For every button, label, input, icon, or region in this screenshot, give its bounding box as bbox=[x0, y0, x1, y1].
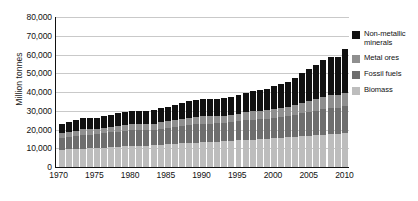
bar-segment bbox=[73, 149, 79, 167]
bar-column[interactable] bbox=[342, 17, 348, 167]
bar-column[interactable] bbox=[200, 17, 206, 167]
bar-column[interactable] bbox=[80, 17, 86, 167]
bar-segment bbox=[285, 82, 291, 107]
bar-column[interactable] bbox=[101, 17, 107, 167]
bar-segment bbox=[207, 116, 213, 123]
y-axis-tick: 60,000 bbox=[27, 50, 52, 60]
bar-column[interactable] bbox=[292, 17, 298, 167]
legend-item[interactable]: Fossil fuels bbox=[352, 70, 418, 79]
bar-segment bbox=[243, 120, 249, 140]
bar-series-container bbox=[56, 17, 349, 167]
bar-column[interactable] bbox=[172, 17, 178, 167]
bar-column[interactable] bbox=[165, 17, 171, 167]
bar-column[interactable] bbox=[193, 17, 199, 167]
bar-column[interactable] bbox=[66, 17, 72, 167]
bar-segment bbox=[264, 89, 270, 110]
x-axis-tick: 1975 bbox=[85, 170, 104, 180]
bar-segment bbox=[264, 139, 270, 167]
bar-column[interactable] bbox=[264, 17, 270, 167]
bar-column[interactable] bbox=[186, 17, 192, 167]
legend-swatch-icon bbox=[352, 31, 360, 39]
bar-segment bbox=[313, 135, 319, 167]
chart-legend: Non-metallic mineralsMetal oresFossil fu… bbox=[352, 30, 418, 102]
bar-column[interactable] bbox=[94, 17, 100, 167]
bar-column[interactable] bbox=[221, 17, 227, 167]
bar-segment bbox=[264, 119, 270, 139]
bar-segment bbox=[122, 131, 128, 147]
bar-segment bbox=[136, 146, 142, 167]
bar-segment bbox=[285, 107, 291, 116]
bar-column[interactable] bbox=[151, 17, 157, 167]
bar-column[interactable] bbox=[299, 17, 305, 167]
bar-segment bbox=[299, 103, 305, 114]
bar-segment bbox=[243, 140, 249, 167]
bar-segment bbox=[179, 119, 185, 126]
x-axis-tick: 1980 bbox=[121, 170, 140, 180]
bar-segment bbox=[200, 116, 206, 123]
bar-segment bbox=[172, 120, 178, 127]
bar-segment bbox=[66, 122, 72, 132]
bar-column[interactable] bbox=[271, 17, 277, 167]
bar-segment bbox=[306, 69, 312, 101]
bar-segment bbox=[94, 118, 100, 129]
bar-segment bbox=[228, 115, 234, 122]
bar-column[interactable] bbox=[136, 17, 142, 167]
bar-segment bbox=[306, 136, 312, 167]
legend-item[interactable]: Non-metallic minerals bbox=[352, 30, 418, 47]
bar-segment bbox=[335, 57, 341, 96]
bar-column[interactable] bbox=[129, 17, 135, 167]
bar-segment bbox=[228, 97, 234, 115]
bar-column[interactable] bbox=[285, 17, 291, 167]
y-axis-tick: 70,000 bbox=[27, 31, 52, 41]
bar-column[interactable] bbox=[320, 17, 326, 167]
bar-segment bbox=[236, 95, 242, 114]
bar-column[interactable] bbox=[87, 17, 93, 167]
bar-column[interactable] bbox=[228, 17, 234, 167]
bar-column[interactable] bbox=[122, 17, 128, 167]
legend-item[interactable]: Biomass bbox=[352, 86, 418, 95]
bar-column[interactable] bbox=[313, 17, 319, 167]
bar-column[interactable] bbox=[335, 17, 341, 167]
bar-segment bbox=[292, 105, 298, 115]
bar-column[interactable] bbox=[207, 17, 213, 167]
bar-segment bbox=[200, 124, 206, 143]
bar-segment bbox=[207, 124, 213, 143]
bar-column[interactable] bbox=[179, 17, 185, 167]
bar-segment bbox=[306, 112, 312, 136]
bar-segment bbox=[278, 117, 284, 138]
bar-column[interactable] bbox=[328, 17, 334, 167]
bar-segment bbox=[59, 150, 65, 167]
bar-column[interactable] bbox=[214, 17, 220, 167]
bar-segment bbox=[335, 108, 341, 134]
bar-column[interactable] bbox=[257, 17, 263, 167]
bar-segment bbox=[94, 148, 100, 167]
bar-segment bbox=[94, 134, 100, 148]
bar-column[interactable] bbox=[236, 17, 242, 167]
bar-column[interactable] bbox=[250, 17, 256, 167]
bar-column[interactable] bbox=[115, 17, 121, 167]
bar-segment bbox=[59, 138, 65, 150]
bar-column[interactable] bbox=[108, 17, 114, 167]
bar-segment bbox=[122, 146, 128, 167]
bar-segment bbox=[250, 111, 256, 119]
bar-column[interactable] bbox=[143, 17, 149, 167]
bar-segment bbox=[151, 145, 157, 167]
bar-segment bbox=[158, 129, 164, 145]
x-axis-tick: 2000 bbox=[264, 170, 283, 180]
bar-segment bbox=[271, 118, 277, 139]
legend-label: Biomass bbox=[364, 86, 393, 95]
bar-segment bbox=[73, 120, 79, 130]
bar-segment bbox=[59, 124, 65, 133]
bar-column[interactable] bbox=[278, 17, 284, 167]
bar-segment bbox=[328, 57, 334, 95]
bar-column[interactable] bbox=[158, 17, 164, 167]
bar-segment bbox=[143, 111, 149, 124]
bar-column[interactable] bbox=[73, 17, 79, 167]
bar-column[interactable] bbox=[243, 17, 249, 167]
bar-segment bbox=[193, 117, 199, 124]
bar-column[interactable] bbox=[59, 17, 65, 167]
bar-segment bbox=[66, 149, 72, 167]
legend-item[interactable]: Metal ores bbox=[352, 54, 418, 63]
bar-column[interactable] bbox=[306, 17, 312, 167]
legend-swatch-icon bbox=[352, 87, 360, 95]
